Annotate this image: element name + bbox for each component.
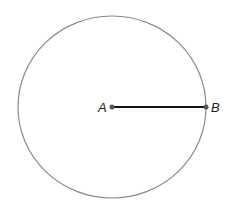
diagram-canvas: A B [0, 0, 236, 205]
point-b [204, 105, 209, 110]
label-a: A [97, 100, 107, 115]
label-b: B [211, 100, 220, 115]
point-a [110, 105, 115, 110]
